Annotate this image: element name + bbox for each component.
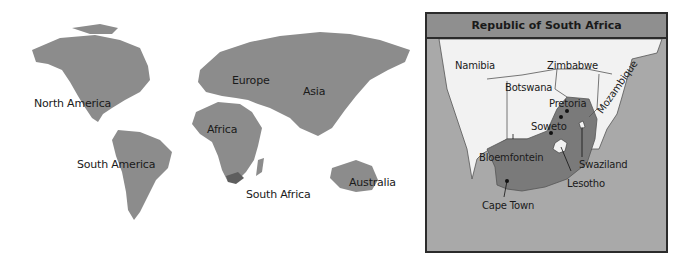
label-pretoria: Pretoria: [549, 98, 586, 109]
label-south-america: South America: [77, 158, 155, 171]
inset-title: Republic of South Africa: [427, 14, 666, 39]
label-botswana: Botswana: [505, 82, 552, 93]
label-zimbabwe: Zimbabwe: [547, 60, 598, 71]
label-lesotho: Lesotho: [567, 178, 605, 189]
label-north-america: North America: [34, 97, 111, 110]
inset-map: Republic of South Africa Namibia Botswan…: [425, 12, 668, 253]
label-africa: Africa: [207, 123, 237, 136]
label-south-africa: South Africa: [246, 188, 310, 201]
label-bloemfontein: Bloemfontein: [479, 152, 543, 163]
label-europe: Europe: [232, 74, 269, 87]
world-map: North America South America Europe Afric…: [0, 0, 420, 256]
label-cape-town: Cape Town: [482, 200, 534, 211]
label-soweto: Soweto: [531, 121, 567, 132]
label-australia: Australia: [349, 176, 396, 189]
label-namibia: Namibia: [455, 60, 495, 71]
label-asia: Asia: [303, 85, 325, 98]
label-swaziland: Swaziland: [579, 159, 627, 170]
